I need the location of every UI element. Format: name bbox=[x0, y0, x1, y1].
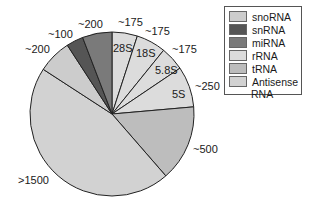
value-label: >1500 bbox=[18, 174, 49, 186]
legend-label-continuation: RNA bbox=[229, 88, 297, 100]
legend-label: tRNA bbox=[252, 63, 277, 75]
legend-label: Antisense bbox=[252, 76, 298, 88]
value-label: ~200 bbox=[78, 18, 103, 30]
slice-label: 18S bbox=[136, 47, 156, 59]
value-label: ~175 bbox=[172, 43, 197, 55]
slice-label: 5S bbox=[172, 88, 185, 100]
legend-swatch-trna bbox=[229, 63, 247, 74]
legend-item-trna: tRNA bbox=[229, 62, 297, 75]
value-label: ~500 bbox=[193, 143, 218, 155]
legend-item-mirna: miRNA bbox=[229, 36, 297, 49]
legend-swatch-snorna bbox=[229, 11, 247, 22]
legend-swatch-antisense bbox=[229, 76, 247, 87]
value-label: ~250 bbox=[195, 80, 220, 92]
legend-item-snorna: snoRNA bbox=[229, 10, 297, 23]
legend-item-rrna: rRNA bbox=[229, 49, 297, 62]
value-label: ~200 bbox=[25, 43, 50, 55]
slice-label: 5.8S bbox=[155, 64, 178, 76]
legend: snoRNA snRNA miRNA rRNA tRNA Antisense R… bbox=[224, 6, 302, 95]
legend-item-antisense: Antisense bbox=[229, 75, 297, 88]
legend-label: snoRNA bbox=[252, 11, 291, 23]
legend-swatch-mirna bbox=[229, 37, 247, 48]
legend-item-snrna: snRNA bbox=[229, 23, 297, 36]
value-label: ~175 bbox=[145, 25, 170, 37]
legend-swatch-rrna bbox=[229, 50, 247, 61]
value-label: ~175 bbox=[118, 16, 143, 28]
slice-label: 28S bbox=[113, 42, 133, 54]
pie-slices bbox=[30, 32, 194, 196]
legend-swatch-snrna bbox=[229, 24, 247, 35]
legend-label: rRNA bbox=[252, 50, 278, 62]
legend-label: miRNA bbox=[252, 37, 285, 49]
value-label: ~100 bbox=[48, 28, 73, 40]
legend-label: snRNA bbox=[252, 24, 285, 36]
